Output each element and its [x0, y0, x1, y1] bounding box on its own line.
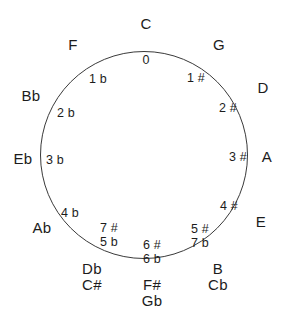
signature-label-f: 1 b — [89, 73, 107, 86]
label-line: B — [208, 261, 228, 276]
key-label-eb: Eb — [14, 151, 33, 166]
label-line: F — [68, 37, 77, 52]
label-line: 5 # — [191, 223, 209, 236]
label-line: Eb — [14, 151, 33, 166]
label-line: 0 — [142, 54, 149, 67]
label-line: D — [257, 80, 268, 95]
label-line: 4 b — [61, 207, 79, 220]
signature-label-db-csharp: 7 #5 b — [100, 222, 118, 249]
label-line: 3 # — [229, 151, 247, 164]
key-label-ab: Ab — [33, 220, 52, 235]
label-line: 2 b — [57, 107, 75, 120]
key-label-d: D — [257, 80, 268, 95]
key-label-g: G — [213, 37, 225, 52]
key-label-db-csharp: DbC# — [82, 261, 102, 293]
label-line: 3 b — [46, 154, 64, 167]
label-line: 1 # — [187, 72, 205, 85]
signature-label-d: 2 # — [219, 102, 237, 115]
label-line: 6 b — [143, 253, 161, 266]
key-label-bb: Bb — [22, 88, 41, 103]
label-line: 1 b — [89, 73, 107, 86]
key-label-a: A — [262, 149, 272, 164]
key-label-c: C — [140, 16, 151, 31]
label-line: 7 # — [100, 222, 118, 235]
label-line: 6 # — [143, 239, 161, 252]
label-line: Cb — [208, 278, 228, 293]
signature-label-c: 0 — [142, 54, 149, 67]
label-line: 4 # — [220, 200, 238, 213]
label-line: Gb — [142, 294, 163, 309]
circle-outline — [40, 51, 248, 259]
label-line: A — [262, 149, 272, 164]
label-line: 5 b — [100, 236, 118, 249]
signature-label-g: 1 # — [187, 72, 205, 85]
label-line: Db — [82, 261, 102, 276]
signature-label-b-cb: 5 #7 b — [191, 223, 209, 250]
label-line: 2 # — [219, 102, 237, 115]
key-label-b-cb: BCb — [208, 261, 228, 293]
signature-label-e: 4 # — [220, 200, 238, 213]
label-line: G — [213, 37, 225, 52]
label-line: 7 b — [191, 237, 209, 250]
signature-label-bb: 2 b — [57, 107, 75, 120]
key-label-fsharp-gb: F#Gb — [142, 277, 163, 309]
label-line: C# — [82, 278, 102, 293]
key-label-e: E — [256, 214, 266, 229]
circle-of-fifths-diagram: C G D A E BCb F#Gb DbC# Ab Eb Bb F 0 1 #… — [0, 0, 293, 321]
signature-label-a: 3 # — [229, 151, 247, 164]
label-line: F# — [142, 277, 163, 292]
key-label-f: F — [68, 37, 77, 52]
signature-label-eb: 3 b — [46, 154, 64, 167]
label-line: Bb — [22, 88, 41, 103]
signature-label-fsharp-gb: 6 #6 b — [143, 239, 161, 266]
signature-label-ab: 4 b — [61, 207, 79, 220]
label-line: Ab — [33, 220, 52, 235]
label-line: C — [140, 16, 151, 31]
label-line: E — [256, 214, 266, 229]
